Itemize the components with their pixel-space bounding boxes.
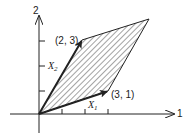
parallelogram-diagram: 1 2 (2, 3) (3, 1) X2 X1 [0,0,190,135]
x-axis-ticks [62,109,108,114]
point-label-x1-end: (3, 1) [111,89,134,100]
point-label-x2-end: (2, 3) [55,35,78,46]
vector-x1-label: X1 [87,99,98,112]
vertical-axis-label: 2 [33,5,39,16]
vector-x2-label: X2 [47,60,58,73]
y-axis-ticks [39,41,45,91]
horizontal-axis-label: 1 [177,108,183,119]
